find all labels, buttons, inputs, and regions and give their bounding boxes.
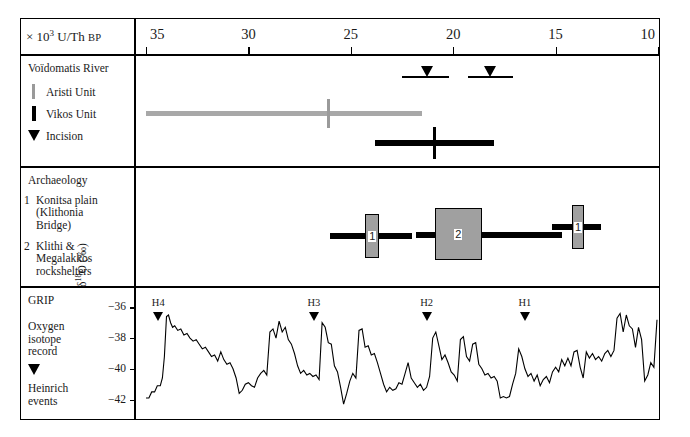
y-axis-rest: O (‰) (76, 243, 88, 273)
panel-divider-header (20, 54, 660, 56)
x-tick-mark (453, 47, 454, 54)
figure-panel: × 103 U/Th BP 353025201510 Voïdomatis Ri… (0, 0, 690, 437)
down-triangle-glyph (484, 66, 496, 77)
y-axis-exponent: 18 (74, 273, 83, 281)
x-tick-mark (248, 47, 249, 54)
archaeology-box-number: 2 (454, 229, 462, 240)
panel-title-archaeology: Archaeology (28, 174, 87, 186)
heinrich-label-line: Heinrich (28, 382, 68, 394)
grip-isotope-curve (134, 286, 660, 420)
grip-subtitle-line: isotope (28, 333, 61, 345)
vikos-unit-mean-tick (433, 127, 436, 159)
x-tick-label: 20 (446, 26, 461, 43)
y-axis-label: δ18O (‰) (74, 215, 88, 315)
x-tick-label: 15 (548, 26, 563, 43)
archaeology-item-number: 1 (24, 194, 30, 206)
archaeology-item-number: 2 (24, 240, 30, 252)
archaeology-occupation-box: 1 (572, 205, 584, 249)
aristi-unit-mean-tick (327, 99, 329, 128)
gray-vertical-bar-icon (32, 84, 35, 99)
archaeology-occupation-box: 2 (435, 208, 482, 260)
axis-unit-prefix: × 10 (26, 29, 50, 44)
x-tick-mark (351, 47, 352, 54)
x-tick-label: 30 (241, 26, 256, 43)
y-tick-label: −42 (100, 393, 126, 405)
aristi-unit-bar (146, 111, 422, 116)
panel-title-grip: GRIP (28, 294, 54, 306)
legend-label-aristi: Aristi Unit (46, 86, 96, 98)
y-tick-label: −40 (100, 362, 126, 374)
archaeology-occupation-box: 1 (365, 214, 379, 258)
down-triangle-icon (421, 66, 433, 77)
panel-title-voidomatis: Voïdomatis River (28, 62, 109, 74)
archaeology-item-text: Konitsa plain(KlithoniaBridge) (36, 194, 98, 231)
x-tick-label: 35 (150, 26, 165, 43)
x-tick-label: 10 (641, 26, 656, 43)
down-triangle-icon (28, 130, 40, 141)
legend-label-vikos: Vikos Unit (46, 108, 96, 120)
x-tick-mark (146, 47, 147, 54)
y-tick-label: −38 (100, 331, 126, 343)
axis-unit-bp: BP (88, 32, 101, 43)
heinrich-label-line: events (28, 395, 57, 407)
y-axis-delta: δ (76, 281, 88, 286)
black-vertical-bar-icon (32, 106, 36, 121)
panel-divider-archaeology (20, 166, 660, 168)
down-triangle-glyph (421, 66, 433, 77)
x-tick-mark (658, 47, 659, 54)
grip-subtitle: Oxygenisotoperecord (28, 320, 64, 358)
x-tick-mark (556, 47, 557, 54)
down-triangle-icon (28, 364, 40, 375)
archaeology-box-number: 1 (368, 231, 376, 242)
y-tick-label: −36 (100, 300, 126, 312)
grip-subtitle-line: Oxygen (28, 320, 64, 332)
legend-label-incision: Incision (46, 130, 83, 142)
grip-subtitle-line: record (28, 345, 57, 357)
archaeology-box-number: 1 (574, 222, 582, 233)
axis-unit-rest: U/Th (54, 29, 88, 44)
axis-unit-label: × 103 U/Th BP (26, 28, 101, 45)
x-tick-label: 25 (344, 26, 359, 43)
heinrich-events-label: Heinrichevents (28, 382, 68, 407)
down-triangle-icon (484, 66, 496, 77)
